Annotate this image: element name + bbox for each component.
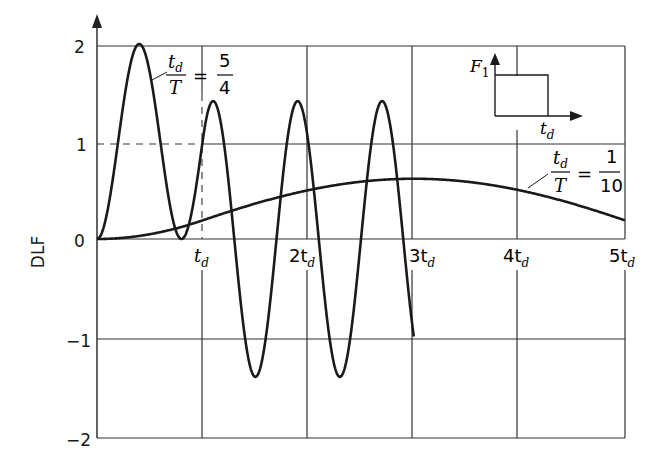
svg-text:=: = <box>577 163 592 184</box>
label-td-T-5-4: td T = 5 4 <box>166 50 233 98</box>
x-tick-1: td <box>194 245 209 270</box>
svg-text:F1: F1 <box>469 56 489 80</box>
svg-text:=: = <box>193 65 208 86</box>
y-tick-m2: −2 <box>66 430 91 450</box>
reference-lines <box>97 94 202 239</box>
y-tick-0: 0 <box>74 231 85 251</box>
y-tick-labels: 2 1 0 −1 −2 <box>66 37 91 450</box>
inset-pulse-diagram <box>490 53 583 121</box>
y-tick-2: 2 <box>74 37 85 57</box>
x-tick-5: 5td <box>609 245 636 270</box>
inset-labels: F1 td <box>469 56 555 142</box>
y-tick-1: 1 <box>76 135 87 155</box>
label-leaders <box>152 72 548 188</box>
svg-text:5: 5 <box>219 50 230 71</box>
x-tick-labels: td 2td 3td 4td 5td <box>194 245 636 270</box>
y-axis-label: DLF <box>28 236 48 268</box>
x-tick-4: 4td <box>503 245 530 270</box>
dlf-chart: 2 1 0 −1 −2 DLF td 2td 3td 4td 5td td T … <box>0 0 657 468</box>
inset-x-arrow-icon <box>570 111 583 121</box>
y-tick-m1: −1 <box>66 331 91 351</box>
svg-text:td: td <box>540 118 555 142</box>
x-tick-2: 2td <box>289 245 316 270</box>
inset-y-arrow-icon <box>490 53 500 65</box>
svg-text:4: 4 <box>219 77 230 98</box>
curve-td-T-5-4 <box>97 44 414 377</box>
y-axis <box>92 14 102 438</box>
svg-text:td: td <box>168 51 183 75</box>
y-axis-arrow-icon <box>92 14 102 28</box>
svg-text:td: td <box>553 147 568 171</box>
svg-text:T: T <box>554 175 568 196</box>
svg-text:T: T <box>169 77 183 98</box>
x-tick-3: 3td <box>409 245 436 270</box>
svg-text:1: 1 <box>606 146 617 167</box>
svg-text:10: 10 <box>600 175 623 196</box>
label-td-T-1-10: td T = 1 10 <box>551 146 623 196</box>
